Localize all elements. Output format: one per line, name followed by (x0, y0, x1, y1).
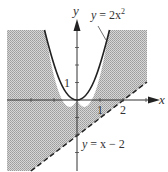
parabola-label-lhs: y (91, 8, 96, 22)
line-label-rhs: = x − 2 (90, 137, 125, 151)
x-tick-label-2: 2 (120, 104, 126, 116)
y-axis-label: y (73, 4, 79, 17)
x-tick-label-1: 1 (97, 104, 103, 116)
line-label-lhs: y (82, 137, 87, 151)
parabola-label-leader (98, 26, 106, 40)
parabola-equation-label: y = 2x2 (91, 8, 125, 21)
y-tick-label-1: 1 (64, 77, 70, 89)
line-equation-label: y = x − 2 (82, 138, 125, 150)
parabola-label-rhs: = 2x (99, 8, 121, 22)
y-axis-arrow-icon (74, 19, 81, 31)
x-axis-label: x (159, 93, 165, 106)
parabola-label-exponent: 2 (121, 7, 125, 16)
